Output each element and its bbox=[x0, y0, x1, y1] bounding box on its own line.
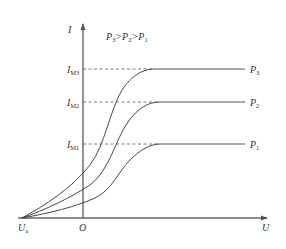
level-im1-label: IM1 bbox=[66, 139, 79, 151]
level-im3-label: IM3 bbox=[66, 64, 79, 76]
stop-voltage-label: Ua bbox=[18, 222, 28, 234]
curve-p2 bbox=[22, 102, 160, 218]
level-im2-label: IM2 bbox=[66, 97, 79, 109]
x-axis-label: U bbox=[262, 222, 270, 233]
power-condition: P3>P2>P1 bbox=[105, 31, 148, 43]
curve-p1-label: P1 bbox=[249, 139, 259, 151]
y-axis-label: I bbox=[67, 24, 72, 35]
curve-p3 bbox=[22, 69, 155, 218]
origin-label: O bbox=[79, 222, 86, 233]
curve-p3-label: P3 bbox=[249, 64, 259, 76]
curve-p2-label: P2 bbox=[249, 97, 259, 109]
curve-p1 bbox=[22, 144, 160, 218]
photoelectric-iv-diagram: P3>P2>P1 I U O Ua IM3 IM2 IM1 P3 P2 P1 bbox=[0, 0, 286, 249]
